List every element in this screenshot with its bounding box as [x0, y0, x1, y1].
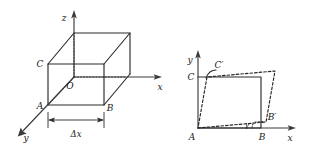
vertex-label-b-prime: B′	[267, 112, 277, 122]
dimension-delta-x	[48, 112, 105, 128]
dimension-label-delta-x: Δx	[70, 129, 82, 139]
z-axis-label: z	[61, 13, 67, 23]
vertex-label-b: B	[106, 103, 114, 113]
x-axis-label: x	[157, 82, 162, 92]
figure-container: z x y C A B O Δx	[0, 0, 309, 152]
figure-canvas: z x y C A B O Δx	[0, 0, 309, 152]
cube-right-bottom-edge	[104, 74, 130, 105]
vertex-label-c-prime: C′	[215, 60, 224, 70]
y-axis-label-right: y	[186, 55, 193, 65]
cube-front-face	[48, 64, 104, 105]
deformed-parallelogram	[198, 71, 275, 128]
undeformed-square-outline	[198, 77, 261, 128]
vertex-label-c: C	[37, 59, 44, 69]
vertex-label-a: A	[36, 101, 44, 111]
deformed-parallelogram-outline	[198, 71, 275, 128]
cube-hidden-edges	[48, 33, 126, 105]
vertex-label-b-right: B	[258, 132, 266, 142]
y-axis-label: y	[22, 133, 29, 143]
cube-visible-edges	[48, 33, 130, 105]
vertex-label-a-right: A	[188, 132, 196, 142]
gamma-leader-line	[255, 122, 263, 123]
cube-top-face	[48, 33, 130, 64]
panel-left-cube: z x y C A B O Δx	[18, 10, 163, 143]
vertex-label-o: O	[66, 81, 74, 91]
panel-right-shear: y x C C′ A B B′ γ	[186, 50, 296, 143]
x-axis-label-right: x	[287, 133, 292, 143]
gamma-angle-label: γ	[245, 120, 250, 129]
vertex-label-c-right: C	[188, 72, 195, 82]
undeformed-square	[198, 77, 261, 128]
